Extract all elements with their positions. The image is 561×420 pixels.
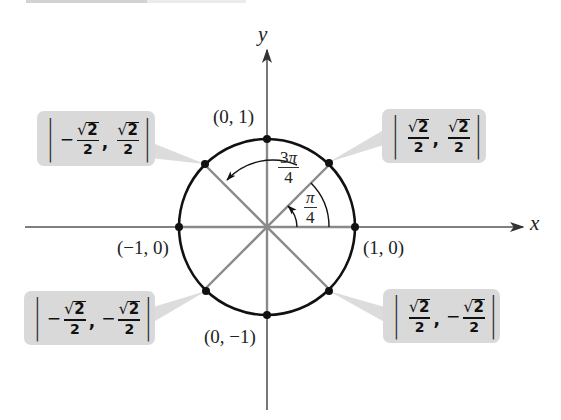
angle-label-3pi-over-4: 3π 4 xyxy=(278,149,299,186)
point-0-neg1 xyxy=(263,311,271,319)
point-1-0 xyxy=(351,223,359,231)
fraction-x: √2 2 xyxy=(77,120,99,158)
fraction-y: √2 2 xyxy=(448,117,470,155)
angle-arc-pi-over-4 xyxy=(288,206,297,227)
x-axis-label: x xyxy=(530,213,539,234)
fraction-y: √2 2 xyxy=(463,297,485,335)
fraction-y: √2 2 xyxy=(118,299,140,337)
point-q3 xyxy=(202,287,210,295)
fraction-x: √2 2 xyxy=(408,117,430,155)
label-point-0-1: (0, 1) xyxy=(213,107,254,126)
point-0-1 xyxy=(263,135,271,143)
angle-label-pi-over-4: π 4 xyxy=(304,189,317,226)
fraction-x: √2 2 xyxy=(64,299,86,337)
point-neg1-0 xyxy=(175,223,183,231)
diagram-graphics xyxy=(0,0,561,420)
fraction-x: √2 2 xyxy=(409,297,431,335)
point-q2 xyxy=(201,160,209,168)
unit-circle-diagram: y x (0, 1) (1, 0) (−1, 0) (0, −1) 3π 4 π… xyxy=(0,0,561,420)
y-axis-label: y xyxy=(258,24,267,45)
label-point-0-neg1: (0, −1) xyxy=(204,327,256,346)
callout-q3-coordinates: | − √2 2 , − √2 2 | xyxy=(24,291,155,345)
fraction-y: √2 2 xyxy=(117,120,139,158)
point-q4 xyxy=(325,287,333,295)
label-point-1-0: (1, 0) xyxy=(363,238,404,257)
callout-q4-coordinates: | √2 2 , − √2 2 | xyxy=(383,289,500,343)
callout-q1-coordinates: | √2 2 , √2 2 | xyxy=(382,109,486,163)
point-q1 xyxy=(325,159,333,167)
callout-q2-coordinates: | − √2 2 , √2 2 | xyxy=(37,111,155,166)
label-point-neg1-0: (−1, 0) xyxy=(117,238,169,257)
